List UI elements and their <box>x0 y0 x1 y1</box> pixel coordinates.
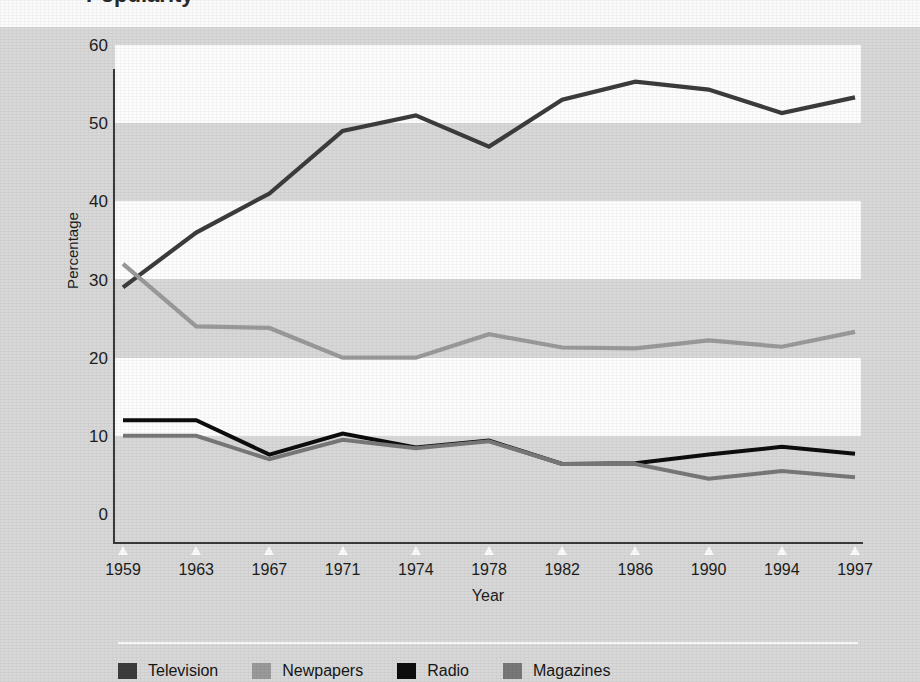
x-tick-mark-1963 <box>191 546 201 555</box>
y-tick-label-60: 60 <box>66 37 108 54</box>
x-tick-mark-1978 <box>484 546 494 555</box>
series-line-newpapers <box>123 264 855 358</box>
chart-title-text: Popularity <box>86 0 194 6</box>
x-tick-label-1990: 1990 <box>674 562 744 578</box>
x-tick-label-1963: 1963 <box>161 562 231 578</box>
scanned-page: Popularity 0102030405060 Percentage 1959… <box>0 0 920 682</box>
legend-swatch-newpapers <box>252 663 271 679</box>
series-line-television <box>123 82 855 288</box>
legend-label-newpapers: Newpapers <box>282 663 363 679</box>
data-lines <box>115 45 861 514</box>
x-tick-mark-1982 <box>557 546 567 555</box>
legend-swatch-television <box>118 663 137 679</box>
x-tick-mark-1959 <box>118 546 128 555</box>
y-tick-label-10: 10 <box>66 428 108 445</box>
legend-item-magazines[interactable]: Magazines <box>503 663 610 679</box>
legend-swatch-magazines <box>503 663 522 679</box>
x-tick-mark-1967 <box>264 546 274 555</box>
x-axis-title: Year <box>115 587 861 605</box>
y-tick-label-50: 50 <box>66 115 108 132</box>
y-tick-label-20: 20 <box>66 350 108 367</box>
legend-label-magazines: Magazines <box>533 663 610 679</box>
legend-divider <box>118 642 858 644</box>
legend-item-television[interactable]: Television <box>118 663 218 679</box>
chart-legend: TelevisionNewpapersRadioMagazines <box>118 663 610 679</box>
x-tick-mark-1994 <box>777 546 787 555</box>
legend-label-radio: Radio <box>427 663 469 679</box>
plot-area <box>115 45 861 514</box>
x-tick-label-1978: 1978 <box>454 562 524 578</box>
y-tick-label-0: 0 <box>66 506 108 523</box>
x-tick-mark-1986 <box>630 546 640 555</box>
chart-title-clipped: Popularity <box>86 0 326 7</box>
y-axis-line <box>113 69 115 544</box>
x-tick-label-1994: 1994 <box>747 562 817 578</box>
chart-figure: 0102030405060 Percentage 195919631967197… <box>0 27 920 682</box>
x-tick-label-1971: 1971 <box>308 562 378 578</box>
x-tick-mark-1971 <box>338 546 348 555</box>
x-tick-label-1982: 1982 <box>527 562 597 578</box>
x-tick-label-1959: 1959 <box>88 562 158 578</box>
legend-item-radio[interactable]: Radio <box>397 663 469 679</box>
series-line-magazines <box>123 436 855 479</box>
y-axis-title: Percentage <box>64 171 81 331</box>
legend-label-television: Television <box>148 663 218 679</box>
x-tick-mark-1997 <box>850 546 860 555</box>
legend-swatch-radio <box>397 663 416 679</box>
x-tick-label-1986: 1986 <box>600 562 670 578</box>
x-tick-mark-1990 <box>704 546 714 555</box>
legend-item-newpapers[interactable]: Newpapers <box>252 663 363 679</box>
x-tick-label-1967: 1967 <box>234 562 304 578</box>
x-axis-tick-labels: 1959196319671971197419781982198619901994… <box>115 546 861 586</box>
x-tick-label-1974: 1974 <box>381 562 451 578</box>
x-tick-label-1997: 1997 <box>820 562 890 578</box>
x-axis-line <box>113 542 863 544</box>
x-tick-mark-1974 <box>411 546 421 555</box>
